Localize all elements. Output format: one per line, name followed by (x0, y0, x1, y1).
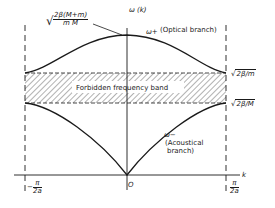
origin-label: O (128, 181, 134, 189)
optical-branch-symbol: ω+ (146, 28, 158, 36)
peak-frequency-label: √ 2β(M+m) m M (50, 12, 85, 27)
right-boundary-den: 2a (230, 188, 239, 195)
optical-edge-value: 2β/m (235, 69, 255, 78)
left-boundary-label: π 2a (33, 180, 42, 195)
peak-denominator: m M (53, 20, 88, 27)
k-axis-label: k (242, 171, 246, 179)
peak-pointer (93, 24, 122, 35)
optical-branch-label: (Optical branch) (160, 26, 217, 34)
acoustical-edge-level: √2β/M (231, 99, 255, 108)
optical-branch-curve (25, 35, 226, 73)
left-boundary-den: 2a (33, 188, 42, 195)
acoustical-branch-label-1: (Acoustical (165, 139, 203, 147)
acoustical-branch-label-2: branch) (167, 147, 194, 155)
omega-axis-label: ω (k) (129, 6, 147, 14)
acoustical-edge-value: 2β/M (235, 99, 254, 108)
acoustical-branch-symbol: ω− (164, 131, 176, 139)
optical-edge-level: √2β/m (231, 69, 256, 78)
right-boundary-label: π 2a (230, 180, 239, 195)
forbidden-band-label: Forbidden frequency band (76, 84, 168, 92)
left-boundary-sign: − (27, 183, 33, 191)
